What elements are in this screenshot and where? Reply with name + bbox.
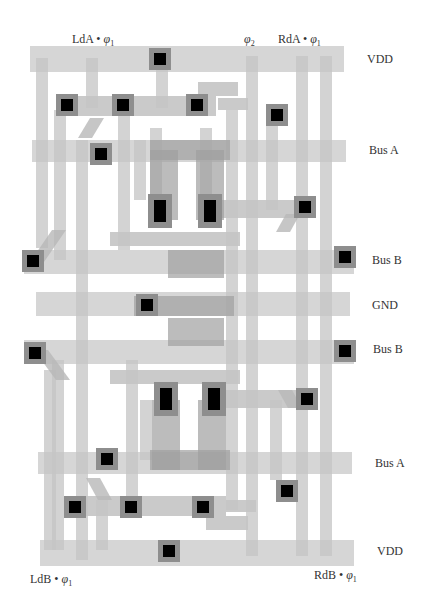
- subscript: 2: [251, 39, 255, 48]
- label-vdd-top: VDD: [367, 52, 393, 67]
- label-ldb-phi1: LdB • φ1: [30, 572, 72, 588]
- label-text: LdB •: [30, 572, 62, 586]
- label-bus-a-bottom: Bus A: [375, 456, 405, 471]
- subscript: 1: [68, 579, 72, 588]
- subscript: 1: [353, 575, 357, 584]
- label-lda-phi1: LdA • φ1: [72, 32, 114, 48]
- circuit-layout: [0, 0, 423, 615]
- label-text: RdB •: [314, 568, 346, 582]
- phi-symbol: φ: [310, 32, 317, 46]
- phi-symbol: φ: [346, 568, 353, 582]
- label-rdb-phi1: RdB • φ1: [314, 568, 357, 584]
- phi-symbol: φ: [244, 32, 251, 46]
- label-bus-b-top: Bus B: [372, 253, 402, 268]
- label-gnd: GND: [372, 298, 398, 313]
- subscript: 1: [110, 39, 114, 48]
- label-rda-phi1: RdA • φ1: [278, 32, 321, 48]
- label-bus-a-top: Bus A: [369, 143, 399, 158]
- label-bus-b-bottom: Bus B: [373, 342, 403, 357]
- label-text: LdA •: [72, 32, 104, 46]
- label-phi2: φ2: [244, 32, 255, 48]
- subscript: 1: [317, 39, 321, 48]
- label-vdd-bottom: VDD: [377, 544, 403, 559]
- label-text: RdA •: [278, 32, 310, 46]
